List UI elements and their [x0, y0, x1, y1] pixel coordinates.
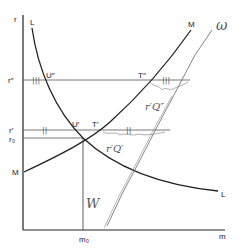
tick-marks-lower-right: || — [126, 126, 131, 135]
M-top-label: M — [188, 20, 195, 29]
handwritten-w-line-shadow — [104, 96, 172, 228]
tick-marks-upper-left: ||| — [32, 76, 40, 85]
handwritten-omega: ω — [216, 17, 228, 33]
tick-marks-lower-left: || — [42, 126, 47, 135]
diagram: r L M M L m r″ r′ r₀ U″ T″ U′ T′ m₀ ω W … — [0, 0, 240, 252]
L-bottom-label: L — [221, 190, 226, 199]
handwritten-gap-upper: r′Q″ — [145, 101, 164, 112]
x-axis-label: m — [219, 232, 226, 241]
T-prime-label: T′ — [92, 120, 99, 129]
U-prime-label: U′ — [72, 120, 80, 129]
handwritten-w-bottom: W — [86, 196, 101, 211]
r-double-prime-label: r″ — [8, 76, 14, 85]
handwritten-gap-lower: r′Q′ — [106, 143, 124, 154]
L-curve — [32, 28, 218, 191]
r-prime-label: r′ — [9, 126, 14, 135]
r-zero-label: r₀ — [9, 135, 15, 144]
m-zero-label: m₀ — [79, 235, 89, 244]
handwritten-w-line — [107, 30, 212, 226]
M-left-label: M — [12, 168, 19, 177]
U-double-prime-label: U″ — [46, 71, 55, 80]
lower-gap-scribble — [103, 132, 165, 135]
tick-marks-upper-right: ||| — [162, 76, 170, 85]
T-double-prime-label: T″ — [138, 71, 146, 80]
L-top-label: L — [30, 18, 35, 27]
y-axis-label: r — [14, 15, 17, 24]
